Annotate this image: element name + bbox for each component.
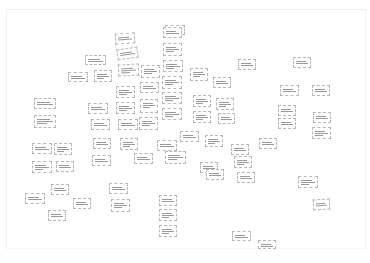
card-text-line [95, 159, 105, 160]
sticky-note-card[interactable]: card [205, 135, 223, 147]
card-text-line [216, 83, 228, 84]
sticky-note-card[interactable]: card [94, 70, 112, 82]
sticky-note-card[interactable]: card [193, 111, 211, 123]
sticky-note-card[interactable]: card [51, 184, 69, 195]
sticky-note-card[interactable]: card [157, 140, 177, 151]
sticky-note-card[interactable]: card [218, 113, 235, 124]
sticky-note-card[interactable]: card [232, 231, 251, 241]
sticky-note-card[interactable]: card [111, 199, 130, 212]
card-text-line [59, 167, 71, 168]
sticky-note-card[interactable]: card [293, 57, 311, 68]
sticky-note-card[interactable]: card [48, 210, 66, 221]
card-text-line [237, 162, 249, 163]
sticky-note-card[interactable]: card [159, 225, 177, 237]
sticky-note-card[interactable]: card [120, 138, 138, 150]
card-text-line [166, 66, 180, 67]
card-text-line [94, 125, 107, 126]
sticky-note-card[interactable]: card [118, 63, 140, 76]
sticky-note-card[interactable]: card [231, 144, 249, 155]
sticky-note-card[interactable]: card [180, 131, 199, 142]
sticky-note-card[interactable]: card [163, 43, 182, 56]
sticky-note-card[interactable]: card [190, 68, 208, 81]
sticky-note-card[interactable]: card [116, 102, 135, 114]
sticky-note-card[interactable]: card [159, 195, 177, 206]
sticky-note-card[interactable]: card [56, 161, 74, 172]
card-text-line [219, 102, 229, 103]
card-text-line [262, 142, 272, 143]
sticky-note-card[interactable]: card [91, 119, 110, 130]
sticky-note-card[interactable]: card [163, 27, 182, 38]
card-text-line [209, 173, 219, 174]
sticky-note-card[interactable]: card [118, 119, 138, 130]
card-text-line [316, 116, 326, 117]
card-text-line [216, 81, 226, 82]
card-text-line [281, 124, 293, 125]
card-text-line [160, 146, 174, 147]
sticky-note-card[interactable]: card [32, 143, 52, 154]
sticky-note-card[interactable]: card [25, 193, 45, 204]
card-text-line [35, 149, 49, 150]
card-text-line [235, 235, 245, 236]
sticky-note-card[interactable]: card [109, 183, 128, 194]
sticky-note-card[interactable]: card [259, 138, 277, 149]
sticky-note-card[interactable]: card [162, 76, 182, 89]
card-text-line [315, 133, 328, 134]
sticky-note-card[interactable]: card [88, 103, 108, 114]
sticky-note-card[interactable]: card [115, 32, 136, 44]
sticky-note-card[interactable]: card [206, 169, 224, 180]
card-text-line [165, 96, 176, 97]
sticky-note-card[interactable]: card [213, 77, 231, 88]
sticky-note-card[interactable]: card [54, 143, 72, 155]
sticky-note-card[interactable]: card [73, 198, 91, 209]
card-text-line [168, 159, 177, 160]
card-text-line [37, 104, 53, 105]
card-text-line [37, 102, 50, 103]
sticky-note-card[interactable]: card [163, 60, 183, 72]
sticky-note-card[interactable]: card [193, 95, 211, 107]
sticky-note-card[interactable]: card [162, 92, 182, 104]
sticky-note-card[interactable]: card [216, 98, 234, 110]
card-text-line [119, 90, 129, 91]
card-text-line [123, 144, 135, 145]
sticky-note-card[interactable]: card [278, 105, 296, 116]
sticky-note-card[interactable]: card [34, 98, 56, 109]
sticky-note-card[interactable]: card [68, 72, 88, 82]
sticky-note-card[interactable]: card [313, 112, 331, 123]
sticky-note-card[interactable]: card [258, 240, 276, 249]
sticky-note-card[interactable]: card [34, 115, 56, 128]
card-text-line [166, 64, 177, 65]
sticky-note-card[interactable]: card [238, 59, 256, 70]
card-text-line [261, 244, 271, 245]
sticky-note-card[interactable]: card [313, 198, 331, 210]
card-text-line [162, 201, 174, 202]
sticky-note-card[interactable]: card [134, 153, 153, 164]
sticky-note-card[interactable]: card [85, 55, 106, 65]
sticky-note-card[interactable]: card [165, 151, 186, 164]
card-text-line [165, 80, 176, 81]
sticky-note-card[interactable]: card [140, 99, 158, 113]
sticky-note-card[interactable]: card [298, 176, 318, 188]
card-text-line [37, 121, 53, 122]
card-text-line [196, 119, 203, 120]
sticky-note-card[interactable]: card [139, 117, 158, 130]
sticky-note-card[interactable]: card [312, 85, 330, 96]
card-text-line [88, 59, 100, 60]
sticky-note-card[interactable]: card [234, 156, 252, 168]
sticky-note-card[interactable]: card [141, 65, 160, 78]
card-text-line [142, 121, 152, 122]
sticky-note-card[interactable]: card [280, 85, 299, 96]
sticky-note-card[interactable]: card [92, 155, 111, 166]
sticky-note-card[interactable]: card [162, 108, 182, 120]
sticky-note-card[interactable]: card [159, 209, 177, 221]
sticky-note-card[interactable]: card [32, 161, 52, 173]
sticky-note-card[interactable]: card [278, 118, 296, 129]
sticky-note-card[interactable]: card [116, 86, 135, 98]
card-text-line [112, 187, 122, 188]
card-text-line [301, 184, 309, 185]
card-text-line [315, 89, 325, 90]
sticky-note-card[interactable]: card [312, 127, 331, 139]
card-text-line [162, 215, 174, 216]
sticky-note-card[interactable]: card [93, 138, 111, 149]
sticky-note-card[interactable]: card [140, 82, 159, 93]
sticky-note-card[interactable]: card [237, 172, 255, 183]
